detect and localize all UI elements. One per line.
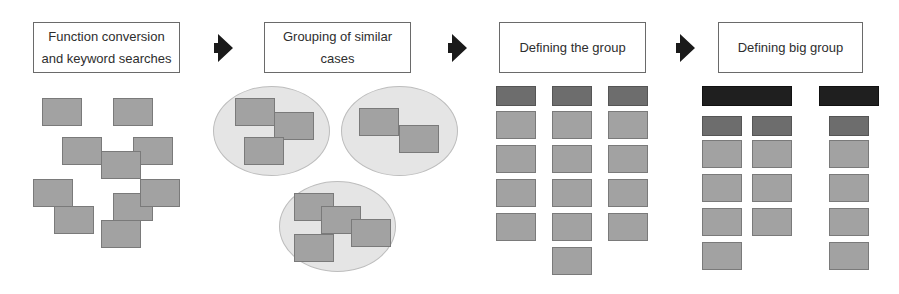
case-card	[608, 145, 648, 173]
case-card	[244, 137, 284, 165]
case-card	[829, 242, 869, 270]
case-card	[608, 179, 648, 207]
arrow-right-icon	[446, 33, 468, 63]
group-header-card	[752, 116, 792, 136]
case-card	[101, 220, 141, 248]
stage-2-label-line1: Grouping of similar	[283, 26, 392, 48]
case-card	[496, 213, 536, 241]
group-header-card	[702, 116, 742, 136]
case-card	[496, 179, 536, 207]
arrow-right-icon	[674, 33, 696, 63]
case-card	[702, 140, 742, 168]
group-header-card	[496, 86, 536, 106]
case-card	[829, 140, 869, 168]
case-card	[294, 234, 334, 262]
case-card	[359, 108, 399, 136]
case-card	[274, 112, 314, 140]
case-card	[33, 179, 73, 207]
case-card	[62, 137, 102, 165]
case-card	[496, 145, 536, 173]
stage-2-title-box: Grouping of similar cases	[264, 22, 411, 73]
case-card	[552, 179, 592, 207]
case-card	[235, 98, 275, 126]
case-card	[608, 213, 648, 241]
stage-4-label: Defining big group	[738, 37, 844, 59]
case-card	[829, 174, 869, 202]
case-card	[702, 208, 742, 236]
case-card	[752, 208, 792, 236]
stage-3-label: Defining the group	[519, 37, 625, 59]
case-card	[608, 111, 648, 139]
case-card	[752, 174, 792, 202]
case-card	[496, 111, 536, 139]
arrow-right-icon	[212, 33, 234, 63]
case-card	[42, 98, 82, 126]
case-card	[552, 111, 592, 139]
case-card	[552, 213, 592, 241]
case-card	[702, 242, 742, 270]
case-card	[101, 151, 141, 179]
stage-1-title-box: Function conversion and keyword searches	[33, 22, 180, 73]
group-header-card	[829, 116, 869, 136]
case-card	[702, 174, 742, 202]
group-header-card	[552, 86, 592, 106]
case-card	[399, 125, 439, 153]
case-card	[552, 145, 592, 173]
stage-4-title-box: Defining big group	[718, 22, 863, 73]
big-group-header-card	[819, 86, 879, 106]
case-card	[829, 208, 869, 236]
big-group-header-card	[702, 86, 792, 106]
stage-1-label-line2: and keyword searches	[41, 48, 171, 70]
case-card	[140, 179, 180, 207]
case-card	[351, 219, 391, 247]
stage-3-title-box: Defining the group	[499, 22, 646, 73]
stage-2-label-line2: cases	[321, 48, 355, 70]
stage-1-label-line1: Function conversion	[48, 26, 164, 48]
case-card	[113, 98, 153, 126]
case-card	[54, 206, 94, 234]
case-card	[552, 247, 592, 275]
case-card	[752, 140, 792, 168]
group-header-card	[608, 86, 648, 106]
